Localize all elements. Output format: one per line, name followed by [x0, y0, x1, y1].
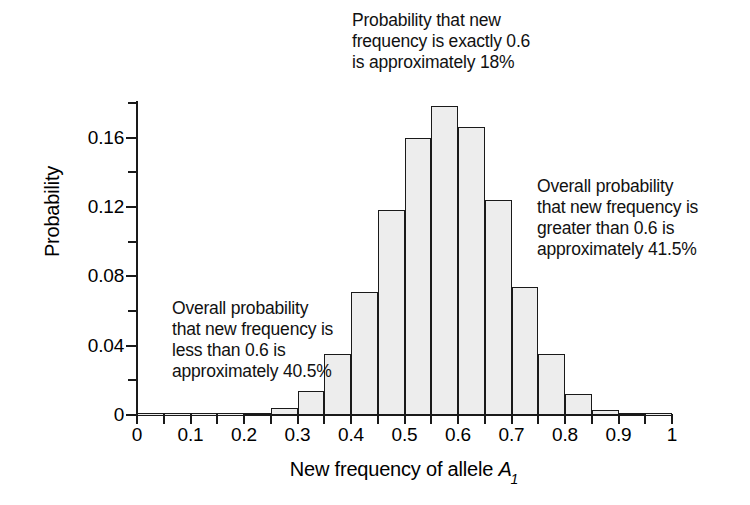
- y-axis-tick-label: 0.12: [24, 197, 124, 216]
- y-axis-tick-minor: [128, 241, 136, 243]
- histogram-bar: [244, 413, 271, 415]
- x-axis-title: New frequency of allele A1: [137, 458, 672, 484]
- x-axis-title-symbol: A: [498, 458, 511, 480]
- histogram-bar: [512, 287, 539, 415]
- x-axis-tick: [297, 415, 299, 424]
- x-axis-tick: [216, 415, 218, 424]
- y-axis-tick-minor: [128, 171, 136, 173]
- histogram-bar: [645, 413, 672, 415]
- y-axis-tick-major: [126, 275, 136, 277]
- x-axis-tick: [377, 415, 379, 424]
- x-axis-tick: [243, 415, 245, 424]
- y-axis-tick-label: 0.16: [24, 128, 124, 147]
- y-axis-tick-label: 0.04: [24, 336, 124, 355]
- x-axis-tick: [457, 415, 459, 424]
- x-axis-tick: [136, 415, 138, 424]
- x-axis-tick-label: 0.8: [535, 424, 595, 446]
- x-axis-tick: [190, 415, 192, 424]
- x-axis-tick: [564, 415, 566, 424]
- y-axis-tick-label: 0.08: [24, 266, 124, 285]
- histogram-bar: [458, 127, 485, 415]
- x-axis-tick: [671, 415, 673, 424]
- x-axis-tick-label: 0.1: [161, 424, 221, 446]
- x-axis-tick: [591, 415, 593, 424]
- x-axis-tick: [270, 415, 272, 424]
- x-axis-tick-label: 0.7: [482, 424, 542, 446]
- x-axis-tick: [618, 415, 620, 424]
- x-axis-tick: [430, 415, 432, 424]
- x-axis-tick: [537, 415, 539, 424]
- histogram-bar: [538, 354, 565, 415]
- x-axis-tick: [323, 415, 325, 424]
- x-axis-tick-label: 0.2: [214, 424, 274, 446]
- histogram-bar: [164, 413, 191, 415]
- histogram-bar: [137, 413, 164, 415]
- annotation-left-tail-probability: Overall probability that new frequency i…: [172, 298, 402, 382]
- x-axis-tick-label: 0.5: [375, 424, 435, 446]
- x-axis-tick-label: 0.6: [428, 424, 488, 446]
- x-axis-tick-label: 0.4: [321, 424, 381, 446]
- x-axis-tick: [511, 415, 513, 424]
- histogram-bar: [619, 413, 646, 415]
- x-axis-tick-label: 1: [642, 424, 702, 446]
- y-axis-tick-minor: [128, 310, 136, 312]
- histogram-bar: [217, 413, 244, 415]
- x-axis-tick: [163, 415, 165, 424]
- x-axis-tick: [644, 415, 646, 424]
- histogram-bar: [485, 200, 512, 415]
- histogram-bar: [431, 106, 458, 415]
- x-axis-tick: [484, 415, 486, 424]
- histogram-bar: [298, 391, 325, 415]
- x-axis-tick-label: 0.3: [268, 424, 328, 446]
- histogram-bar: [191, 413, 218, 415]
- x-axis-title-prefix: New frequency of allele: [290, 458, 499, 480]
- y-axis-tick-minor: [128, 379, 136, 381]
- histogram-bar: [271, 408, 298, 415]
- histogram-bar: [405, 138, 432, 415]
- y-axis-tick-label: 0: [24, 405, 124, 424]
- x-axis-tick-label: 0: [107, 424, 167, 446]
- y-axis-tick-major: [126, 206, 136, 208]
- x-axis-tick: [350, 415, 352, 424]
- x-axis-tick: [404, 415, 406, 424]
- y-axis-tick-major: [126, 137, 136, 139]
- histogram-figure: 00.040.080.120.16 Probability 00.10.20.3…: [0, 0, 750, 505]
- y-axis-tick-major: [126, 345, 136, 347]
- y-axis-tick-major: [126, 414, 136, 416]
- x-axis-tick-label: 0.9: [589, 424, 649, 446]
- y-axis-title: Probability: [41, 102, 64, 322]
- y-axis-tick-minor: [128, 102, 136, 104]
- histogram-bar: [565, 394, 592, 415]
- annotation-right-tail-probability: Overall probability that new frequency i…: [537, 176, 750, 260]
- annotation-peak-probability: Probability that new frequency is exactl…: [352, 10, 602, 73]
- histogram-bar: [592, 410, 619, 415]
- x-axis-title-subscript: 1: [511, 471, 519, 487]
